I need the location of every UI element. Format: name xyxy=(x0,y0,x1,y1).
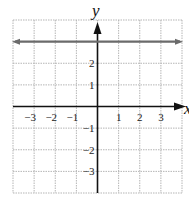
x-tick-label: −2 xyxy=(45,111,57,123)
x-tick-label: 1 xyxy=(116,111,122,123)
y-axis-arrow-icon xyxy=(94,22,102,34)
y-tick-label: −2 xyxy=(83,144,95,156)
y-tick-label: 2 xyxy=(89,57,95,69)
tick-labels: −3−2−112321−1−2−3 xyxy=(24,57,164,177)
coordinate-plane: −3−2−112321−1−2−3 y x xyxy=(0,0,189,197)
x-tick-label: −3 xyxy=(24,111,36,123)
axes xyxy=(13,22,186,193)
y-axis-label: y xyxy=(90,1,100,20)
y-tick-label: 1 xyxy=(89,79,95,91)
x-tick-label: 2 xyxy=(137,111,143,123)
x-tick-label: 3 xyxy=(158,111,164,123)
y-tick-label: −3 xyxy=(83,165,95,177)
y-tick-label: −1 xyxy=(83,122,95,134)
x-tick-label: −1 xyxy=(67,111,79,123)
x-axis-label: x xyxy=(183,99,189,118)
